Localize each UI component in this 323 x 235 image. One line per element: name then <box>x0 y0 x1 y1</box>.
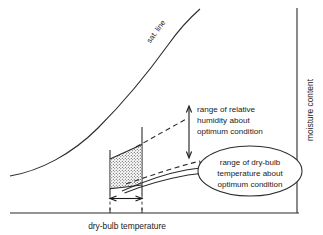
relative-humidity-line-1: range of relative <box>197 105 256 114</box>
y-axis-label: moisture content <box>305 78 315 141</box>
psychrometric-chart-figure: sat. line <box>0 0 323 235</box>
relative-humidity-dimension-arrow <box>186 106 191 158</box>
relative-humidity-line-2: humidity about <box>197 116 250 125</box>
psychrometric-chart-svg: sat. line <box>0 0 323 235</box>
dry-bulb-callout-line-2: temperature about <box>217 169 283 178</box>
saturation-line-label: sat. line <box>145 18 168 44</box>
relative-humidity-upper-ray <box>136 118 188 147</box>
relative-humidity-line-3: optimum condition <box>197 127 263 136</box>
optimum-comfort-zone-region <box>110 145 142 189</box>
dry-bulb-dimension-arrow <box>110 196 142 201</box>
saturation-line-group: sat. line <box>10 9 200 176</box>
dry-bulb-callout-line-1: range of dry-bulb <box>220 158 281 167</box>
x-axis-label: dry-bulb temperature <box>88 221 166 231</box>
saturation-curve <box>10 9 200 176</box>
relative-humidity-annotation: range of relative humidity about optimum… <box>197 105 263 136</box>
dry-bulb-callout: range of dry-bulb temperature about opti… <box>198 146 302 196</box>
comfort-zone-stipple-fill <box>111 145 142 189</box>
dry-bulb-callout-line-3: optimum condition <box>218 180 283 189</box>
